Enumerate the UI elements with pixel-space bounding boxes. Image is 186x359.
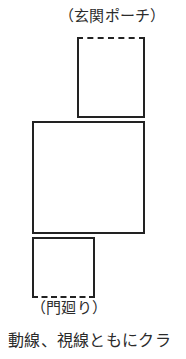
entrance-porch-label: （玄関ポーチ） [59,9,165,24]
scanned-diagram-page: （玄関ポーチ） （門廻り） 動線、視線ともにクラ [0,0,186,359]
main-room-area-rect [32,121,145,234]
gate-area-rect [32,237,95,298]
gate-area-label: （門廻り） [31,301,107,316]
entrance-porch-area-rect [77,37,145,118]
diagram-caption: 動線、視線ともにクラ [8,333,171,349]
